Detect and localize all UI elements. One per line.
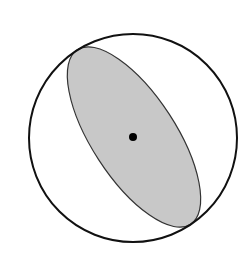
diagram-canvas xyxy=(0,0,249,264)
center-dot xyxy=(129,133,137,141)
